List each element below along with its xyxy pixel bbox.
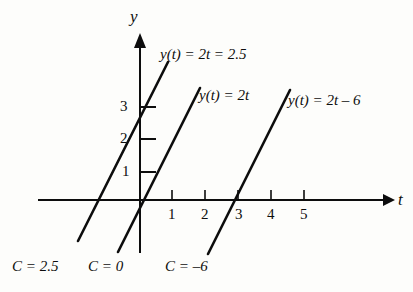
y-axis-label: y xyxy=(130,8,138,25)
equation-label-c-minus6: y(t) = 2t – 6 xyxy=(288,93,361,108)
t-tick-label-5: 5 xyxy=(300,207,308,222)
y-axis-arrowhead xyxy=(134,33,146,48)
t-tick-label-2: 2 xyxy=(201,207,209,222)
slope-field-line-family-figure: y t 3 2 1 1 2 3 4 5 y(t) = 2t = 2.5 y(t)… xyxy=(0,0,413,292)
constant-label-c-0: C = 0 xyxy=(88,259,123,274)
t-axis-arrowhead xyxy=(383,194,395,206)
t-tick-label-1: 1 xyxy=(168,207,176,222)
line-c-2point5 xyxy=(78,62,168,241)
line-c-minus6 xyxy=(208,90,290,254)
equation-label-c-2point5: y(t) = 2t = 2.5 xyxy=(160,47,246,62)
line-c-0 xyxy=(118,88,200,252)
y-tick-label-3: 3 xyxy=(120,99,128,114)
t-tick-label-4: 4 xyxy=(267,207,275,222)
equation-label-c-0: y(t) = 2t xyxy=(199,88,249,103)
y-tick-label-2: 2 xyxy=(120,131,128,146)
constant-label-c-2point5: C = 2.5 xyxy=(12,259,58,274)
t-axis-label: t xyxy=(398,191,403,208)
plot-canvas xyxy=(0,0,413,292)
constant-label-c-minus6: C = –6 xyxy=(165,259,208,274)
t-tick-label-3: 3 xyxy=(235,207,243,222)
y-tick-label-1: 1 xyxy=(122,164,130,179)
